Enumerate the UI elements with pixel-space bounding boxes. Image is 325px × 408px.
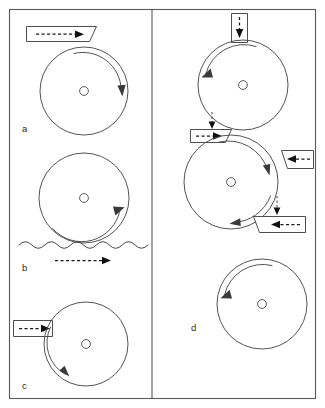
figure-canvas: a b c: [0, 0, 325, 408]
figure-root: a b c: [0, 0, 325, 408]
panel-a-label: a: [22, 123, 28, 134]
panel-d-label: d: [191, 322, 196, 333]
panel-b-label: b: [22, 262, 27, 273]
panel-c-label: c: [22, 380, 27, 391]
